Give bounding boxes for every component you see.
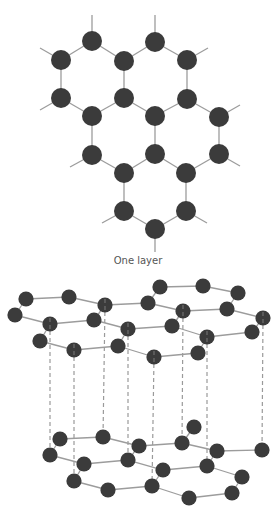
carbon-atom [51, 50, 71, 70]
carbon-atom [181, 490, 196, 505]
carbon-atom [145, 144, 165, 164]
carbon-atom [145, 106, 165, 126]
single-layer-bonds [40, 15, 240, 252]
carbon-atom [7, 307, 22, 322]
carbon-atom [144, 478, 159, 493]
carbon-atom [95, 429, 110, 444]
carbon-atom [177, 50, 197, 70]
interlayer-line [103, 305, 105, 437]
carbon-atom [209, 144, 229, 164]
carbon-atom [190, 345, 205, 360]
carbon-atom [209, 107, 229, 127]
carbon-atom [114, 201, 134, 221]
carbon-atom [199, 458, 214, 473]
carbon-atom [230, 285, 245, 300]
carbon-atom [234, 469, 249, 484]
carbon-atom [164, 318, 179, 333]
single-graphene-layer [40, 15, 240, 252]
carbon-atom [195, 278, 210, 293]
carbon-atom [145, 32, 165, 52]
carbon-atom [52, 431, 67, 446]
stacked-graphite-layers [7, 278, 270, 505]
carbon-atom [114, 51, 134, 71]
carbon-atom [114, 163, 134, 183]
carbon-atom [18, 291, 33, 306]
carbon-atom [61, 289, 76, 304]
interlayer-line [262, 318, 263, 450]
carbon-atom [32, 333, 47, 348]
carbon-atom [110, 338, 125, 353]
one-layer-caption: One layer [0, 255, 276, 266]
single-layer-atoms [51, 31, 229, 239]
carbon-atom [145, 219, 165, 239]
carbon-atom [100, 482, 115, 497]
carbon-atom [152, 279, 167, 294]
carbon-atom [177, 89, 197, 109]
carbon-atom [131, 438, 146, 453]
carbon-atom [224, 485, 239, 500]
carbon-atom [219, 301, 234, 316]
carbon-atom [120, 452, 135, 467]
top-layer-atoms [7, 278, 270, 364]
carbon-atom [76, 456, 91, 471]
carbon-atom [155, 462, 170, 477]
interlayer-line [182, 311, 183, 443]
carbon-atom [82, 106, 102, 126]
carbon-atom [254, 442, 269, 457]
carbon-atom [82, 145, 102, 165]
carbon-atom [114, 88, 134, 108]
carbon-atom [176, 201, 196, 221]
carbon-atom [174, 435, 189, 450]
carbon-atom [82, 31, 102, 51]
carbon-atom [209, 443, 224, 458]
carbon-atom [86, 312, 101, 327]
carbon-atom [51, 88, 71, 108]
carbon-atom [186, 419, 201, 434]
carbon-atom [42, 447, 57, 462]
carbon-atom [244, 324, 259, 339]
carbon-atom [66, 473, 81, 488]
carbon-atom [176, 163, 196, 183]
carbon-atom [140, 295, 155, 310]
